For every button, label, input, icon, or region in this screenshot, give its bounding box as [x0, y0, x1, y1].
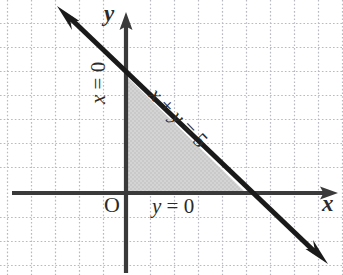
x-axis-label: x	[322, 192, 334, 215]
constraint-label-x-equals-0: x = 0	[88, 62, 109, 104]
graph-figure: y x O y = 0 x = 0 x + y = 5x + y = 5	[0, 0, 343, 275]
constraint-label-x-equals-0-variable: x	[86, 95, 110, 104]
y-axis-label: y	[104, 2, 114, 25]
constraint-label-y-equals-0: y = 0	[152, 196, 194, 217]
constraint-label-y-equals-0-value: = 0	[161, 194, 194, 218]
coordinate-plane-svg	[0, 0, 343, 275]
origin-label: O	[104, 194, 120, 216]
constraint-label-y-equals-0-variable: y	[152, 194, 161, 218]
constraint-label-x-equals-0-value: = 0	[86, 62, 110, 95]
